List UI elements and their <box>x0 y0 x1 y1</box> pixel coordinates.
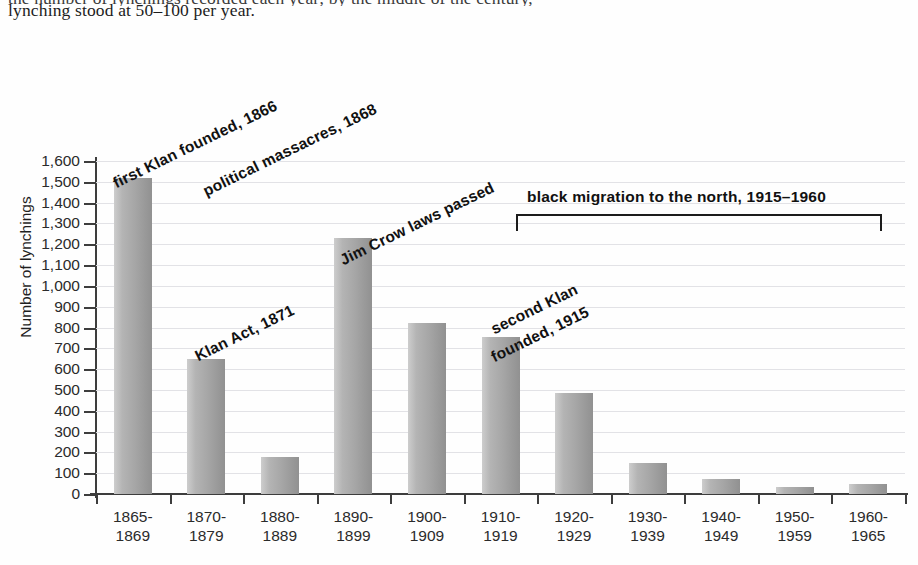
x-axis-tick-label-line: 1890- <box>316 507 390 526</box>
y-axis-tick-label: 100 <box>6 464 80 482</box>
y-axis-tick-label: 400 <box>6 402 80 420</box>
y-axis-tick-label: 500 <box>6 381 80 399</box>
y-axis-tick <box>84 223 95 225</box>
x-axis-tick-label: 1865-1869 <box>96 507 170 545</box>
x-axis-tick-label: 1900-1909 <box>390 507 464 545</box>
y-axis-tick-label: 1,400 <box>6 194 80 212</box>
x-axis-tick-label: 1960-1965 <box>831 507 905 545</box>
x-axis-tick-label-line: 1939 <box>611 526 685 545</box>
y-axis-tick-label: 1,000 <box>6 277 80 295</box>
y-axis-tick-label: 200 <box>6 443 80 461</box>
x-axis-tick <box>96 494 98 504</box>
x-axis-tick-label: 1930-1939 <box>611 507 685 545</box>
x-axis-tick-label-line: 1899 <box>316 526 390 545</box>
x-axis-tick-label-line: 1879 <box>169 526 243 545</box>
gridline <box>96 161 905 162</box>
y-axis-tick-label: 600 <box>6 360 80 378</box>
x-axis-tick-label-line: 1940- <box>684 507 758 526</box>
x-axis-tick-label-line: 1949 <box>684 526 758 545</box>
x-axis-tick-label-line: 1869 <box>96 526 170 545</box>
bar <box>114 178 152 494</box>
x-axis-tick-label: 1910-1919 <box>464 507 538 545</box>
x-axis-tick-label: 1870-1879 <box>169 507 243 545</box>
prose-line: lynching stood at 50–100 per year. <box>8 0 255 21</box>
gridline <box>96 244 905 245</box>
x-axis-tick-label-line: 1900- <box>390 507 464 526</box>
bar <box>849 484 887 494</box>
y-axis-tick-label: 1,500 <box>6 173 80 191</box>
y-axis-tick <box>84 348 95 350</box>
y-axis-tick-label: 1,100 <box>6 256 80 274</box>
y-axis-tick-label: 1,300 <box>6 214 80 232</box>
y-axis-tick <box>84 390 95 392</box>
x-axis-tick-label-line: 1965 <box>831 526 905 545</box>
y-axis-tick <box>84 286 95 288</box>
x-axis-tick <box>170 494 172 504</box>
y-axis-tick <box>84 369 95 371</box>
x-axis-tick-label: 1950-1959 <box>758 507 832 545</box>
y-axis-tick <box>84 265 95 267</box>
black-migration-bracket <box>516 214 882 231</box>
x-axis-tick-label: 1880-1889 <box>243 507 317 545</box>
y-axis-tick-label: 300 <box>6 423 80 441</box>
x-axis-tick-label-line: 1959 <box>758 526 832 545</box>
x-axis-tick <box>611 494 613 504</box>
x-axis-tick-label-line: 1919 <box>464 526 538 545</box>
bar <box>408 323 446 494</box>
y-axis-tick <box>84 161 95 163</box>
x-axis-tick-label: 1920-1929 <box>537 507 611 545</box>
x-axis-tick <box>537 494 539 504</box>
y-axis-tick <box>84 244 95 246</box>
lynchings-bar-chart: Number of lynchings 01002003004005006007… <box>0 28 918 565</box>
annotation-black-migration: black migration to the north, 1915–1960 <box>527 188 826 206</box>
y-axis-tick-label: 0 <box>6 485 80 503</box>
y-axis-tick-label: 1,200 <box>6 235 80 253</box>
y-axis-tick <box>84 432 95 434</box>
x-axis-tick <box>464 494 466 504</box>
y-axis-tick <box>84 473 95 475</box>
x-axis-tick-label-line: 1950- <box>758 507 832 526</box>
x-axis-tick <box>684 494 686 504</box>
bar <box>261 457 299 494</box>
x-axis-tick <box>831 494 833 504</box>
y-axis-tick-label: 1,600 <box>6 152 80 170</box>
x-axis-tick-label-line: 1920- <box>537 507 611 526</box>
x-axis-tick-label-line: 1889 <box>243 526 317 545</box>
x-axis-tick-label-line: 1960- <box>831 507 905 526</box>
y-axis-tick <box>84 328 95 330</box>
gridline <box>96 286 905 287</box>
x-axis-tick <box>243 494 245 504</box>
y-axis-tick <box>84 182 95 184</box>
gridline <box>96 265 905 266</box>
x-axis-tick-label-line: 1910- <box>464 507 538 526</box>
x-axis-tick <box>390 494 392 504</box>
x-axis-tick-label-line: 1930- <box>611 507 685 526</box>
bar <box>629 463 667 494</box>
bar <box>702 479 740 494</box>
x-axis-tick <box>317 494 319 504</box>
y-axis-tick <box>84 452 95 454</box>
y-axis-labels: 01002003004005006007008009001,0001,1001,… <box>0 28 80 528</box>
y-axis-tick <box>84 203 95 205</box>
gridline <box>96 307 905 308</box>
x-axis-tick-label-line: 1909 <box>390 526 464 545</box>
x-axis-tick-label: 1940-1949 <box>684 507 758 545</box>
y-axis-tick-label: 900 <box>6 298 80 316</box>
y-axis-tick-label: 800 <box>6 319 80 337</box>
chart-page: the number of lynchings recorded each ye… <box>0 0 918 565</box>
x-axis-tick-label-line: 1870- <box>169 507 243 526</box>
y-axis-tick-label: 700 <box>6 339 80 357</box>
bar <box>555 393 593 494</box>
x-axis-tick-label-line: 1929 <box>537 526 611 545</box>
bar <box>187 359 225 494</box>
x-axis-tick <box>905 494 907 504</box>
x-axis-tick <box>758 494 760 504</box>
x-axis-tick-label-line: 1880- <box>243 507 317 526</box>
x-axis-tick-label: 1890-1899 <box>316 507 390 545</box>
x-axis-tick-label-line: 1865- <box>96 507 170 526</box>
y-axis-tick <box>84 411 95 413</box>
bar <box>334 238 372 494</box>
bar <box>776 487 814 494</box>
y-axis-tick <box>84 307 95 309</box>
